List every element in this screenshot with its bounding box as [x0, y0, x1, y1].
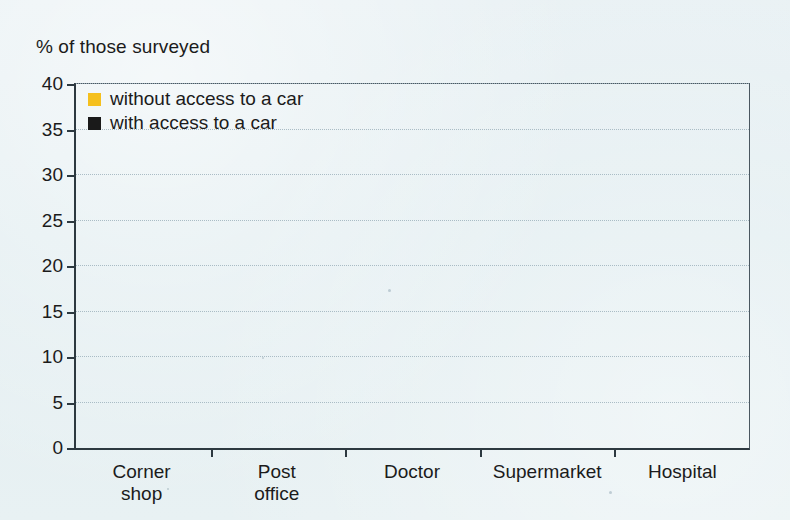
- y-axis-tick-label: 15: [42, 301, 63, 323]
- bar-groups: [76, 84, 749, 448]
- y-axis-tick-mark: [67, 84, 76, 86]
- y-axis-tick-label: 10: [42, 346, 63, 368]
- y-axis-title: % of those surveyed: [36, 36, 210, 58]
- legend-label: with access to a car: [110, 112, 277, 134]
- legend-label: without access to a car: [110, 88, 303, 110]
- y-axis-tick-label: 20: [42, 255, 63, 277]
- bar-group: [614, 84, 749, 448]
- legend-entry[interactable]: with access to a car: [88, 112, 303, 134]
- scan-speck: [609, 491, 612, 494]
- legend-swatch-icon: [88, 117, 101, 130]
- x-axis-tick-label: Cornershop: [74, 461, 209, 505]
- x-axis-tick-label: Doctor: [344, 461, 479, 505]
- bar-group: [345, 84, 480, 448]
- x-axis-labels: CornershopPostofficeDoctorSupermarketHos…: [74, 461, 750, 505]
- x-axis-tick-label: Postoffice: [209, 461, 344, 505]
- legend-swatch-icon: [88, 93, 101, 106]
- y-axis-tick-mark: [67, 266, 76, 268]
- y-axis-tick-mark: [67, 403, 76, 405]
- y-axis-tick-mark: [67, 130, 76, 132]
- y-axis-tick-mark: [67, 312, 76, 314]
- y-axis-tick-label: 30: [42, 164, 63, 186]
- y-axis-tick-label: 0: [52, 437, 63, 459]
- scan-speck: [262, 357, 264, 359]
- bar-group: [76, 84, 211, 448]
- y-axis-tick-label: 5: [52, 392, 63, 414]
- y-axis-tick-mark: [67, 221, 76, 223]
- chart-page: % of those surveyed 0510152025303540 Cor…: [0, 0, 790, 520]
- chart-legend: without access to a carwith access to a …: [88, 88, 303, 134]
- x-axis-tick-label: Supermarket: [480, 461, 615, 505]
- y-axis-tick-mark: [67, 175, 76, 177]
- y-axis-tick-label: 35: [42, 119, 63, 141]
- y-axis-tick-mark: [67, 448, 76, 450]
- x-axis-tick-label: Hospital: [615, 461, 750, 505]
- plot-area: 0510152025303540: [74, 83, 750, 450]
- scan-speck: [388, 289, 391, 292]
- bar-group: [480, 84, 615, 448]
- bar-group: [211, 84, 346, 448]
- y-axis-tick-label: 40: [42, 73, 63, 95]
- y-axis-tick-label: 25: [42, 210, 63, 232]
- y-axis-tick-mark: [67, 357, 76, 359]
- legend-entry[interactable]: without access to a car: [88, 88, 303, 110]
- scan-speck: [167, 488, 169, 490]
